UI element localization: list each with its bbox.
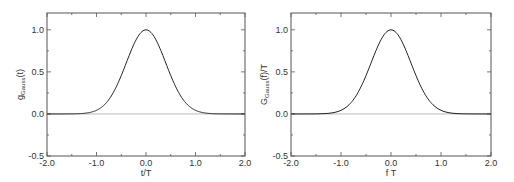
x-tick-label: 2.0: [485, 158, 498, 168]
y-tick-label: 1.0: [275, 25, 288, 35]
x-tick-label: -1.0: [333, 158, 349, 168]
y-tick-label: -0.5: [272, 151, 288, 161]
plot-frequency-domain: -2.0-1.00.01.02.0-0.50.00.51.0f TGGauss(…: [259, 13, 497, 178]
figure: -2.0-1.00.01.02.0-0.50.00.51.0t/TgGauss(…: [0, 0, 514, 182]
y-tick-label: 0.0: [275, 109, 288, 119]
plot-time-domain: -2.0-1.00.01.02.0-0.50.00.51.0t/TgGauss(…: [15, 13, 251, 178]
x-tick-label: 0.0: [385, 158, 398, 168]
plot-frame: [47, 13, 245, 156]
x-tick-label: 1.0: [435, 158, 448, 168]
y-tick-label: 0.0: [31, 109, 44, 119]
x-tick-label: 2.0: [239, 158, 252, 168]
x-tick-label: 0.0: [140, 158, 153, 168]
x-axis-label: f T: [386, 168, 397, 178]
gaussian-curve: [47, 30, 245, 114]
y-tick-label: -0.5: [28, 151, 44, 161]
x-tick-label: -1.0: [89, 158, 105, 168]
x-tick-label: 1.0: [189, 158, 202, 168]
gaussian-curve: [291, 30, 491, 114]
y-tick-label: 0.5: [31, 67, 44, 77]
y-tick-label: 1.0: [31, 25, 44, 35]
y-axis-label: gGauss(t): [15, 69, 26, 100]
y-tick-label: 0.5: [275, 67, 288, 77]
plot-frame: [291, 13, 491, 156]
y-axis-label: GGauss(f)/T: [259, 64, 270, 105]
x-axis-label: t/T: [141, 168, 152, 178]
